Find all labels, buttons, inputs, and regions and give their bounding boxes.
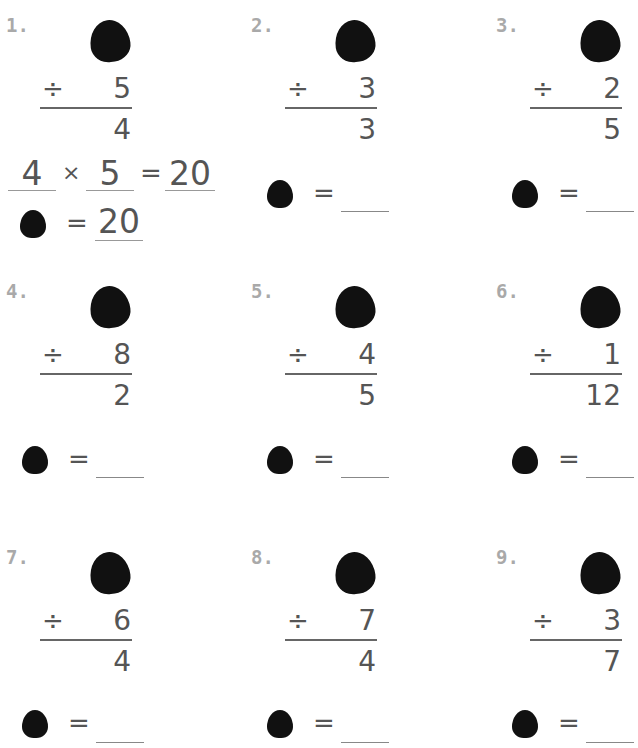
- worked-product: 20: [165, 154, 215, 193]
- answer-line: [86, 190, 134, 191]
- problem-number: 4.: [6, 280, 29, 302]
- unknown-blob-icon: [87, 283, 132, 330]
- equals-sign: =: [313, 708, 335, 738]
- divisor: 3: [585, 604, 621, 637]
- divisor: 4: [340, 338, 376, 371]
- division-bar: [40, 373, 132, 375]
- unknown-blob-icon: [87, 549, 132, 596]
- answer-blank[interactable]: [586, 742, 634, 743]
- problem-2: 2. ÷ 3 3 =: [245, 0, 490, 260]
- divide-sign: ÷: [532, 606, 554, 636]
- quotient: 3: [340, 113, 376, 146]
- worked-factor-b: 5: [86, 154, 134, 193]
- problem-number: 7.: [6, 546, 29, 568]
- unknown-blob-icon: [267, 446, 293, 474]
- divisor: 8: [95, 338, 131, 371]
- unknown-blob-icon: [512, 446, 538, 474]
- unknown-blob-icon: [577, 549, 622, 596]
- divisor: 1: [585, 338, 621, 371]
- equals-sign: =: [66, 208, 88, 238]
- unknown-blob-icon: [22, 446, 48, 474]
- equals-sign: =: [68, 708, 90, 738]
- answer-blank[interactable]: [341, 742, 389, 743]
- problem-number: 1.: [6, 14, 29, 36]
- unknown-blob-icon: [332, 549, 377, 596]
- equals-sign: =: [558, 444, 580, 474]
- divisor: 5: [95, 72, 131, 105]
- divide-sign: ÷: [532, 340, 554, 370]
- problem-7: 7. ÷ 6 4 =: [0, 532, 245, 748]
- quotient: 12: [585, 379, 621, 412]
- problem-number: 3.: [496, 14, 519, 36]
- times-sign: ×: [62, 160, 80, 185]
- unknown-blob-icon: [577, 283, 622, 330]
- unknown-blob-icon: [512, 710, 538, 738]
- worked-answer: 20: [95, 202, 143, 241]
- quotient: 7: [585, 645, 621, 678]
- unknown-blob-icon: [267, 180, 293, 208]
- problem-4: 4. ÷ 8 2 =: [0, 266, 245, 526]
- equals-sign: =: [558, 178, 580, 208]
- problem-5: 5. ÷ 4 5 =: [245, 266, 490, 526]
- quotient: 5: [340, 379, 376, 412]
- problem-3: 3. ÷ 2 5 =: [490, 0, 638, 260]
- unknown-blob-icon: [332, 283, 377, 330]
- division-bar: [530, 639, 622, 641]
- answer-line: [95, 240, 143, 241]
- problem-number: 5.: [251, 280, 274, 302]
- unknown-blob-icon: [20, 210, 46, 238]
- problem-number: 8.: [251, 546, 274, 568]
- divide-sign: ÷: [532, 74, 554, 104]
- problem-1: 1. ÷ 5 4 4 × 5 = 20 = 20: [0, 0, 245, 260]
- quotient: 2: [95, 379, 131, 412]
- quotient: 4: [95, 113, 131, 146]
- division-bar: [530, 373, 622, 375]
- equals-sign: =: [313, 444, 335, 474]
- quotient: 5: [585, 113, 621, 146]
- quotient: 4: [95, 645, 131, 678]
- unknown-blob-icon: [22, 710, 48, 738]
- answer-blank[interactable]: [586, 477, 634, 478]
- equals-sign: =: [558, 708, 580, 738]
- problem-number: 6.: [496, 280, 519, 302]
- problem-8: 8. ÷ 7 4 =: [245, 532, 490, 748]
- unknown-blob-icon: [332, 17, 377, 64]
- equals-sign: =: [68, 444, 90, 474]
- quotient: 4: [340, 645, 376, 678]
- divide-sign: ÷: [287, 606, 309, 636]
- divide-sign: ÷: [287, 74, 309, 104]
- division-bar: [530, 107, 622, 109]
- divide-sign: ÷: [42, 74, 64, 104]
- division-bar: [40, 107, 132, 109]
- answer-line: [165, 190, 215, 191]
- problem-9: 9. ÷ 3 7 =: [490, 532, 638, 748]
- worked-factor-a: 4: [8, 154, 56, 193]
- problem-6: 6. ÷ 1 12 =: [490, 266, 638, 526]
- equals-sign: =: [140, 158, 162, 188]
- unknown-blob-icon: [87, 17, 132, 64]
- divisor: 2: [585, 72, 621, 105]
- divide-sign: ÷: [42, 606, 64, 636]
- answer-blank[interactable]: [96, 477, 144, 478]
- division-bar: [285, 373, 377, 375]
- divisor: 3: [340, 72, 376, 105]
- problem-number: 2.: [251, 14, 274, 36]
- answer-line: [8, 190, 56, 191]
- problem-number: 9.: [496, 546, 519, 568]
- divide-sign: ÷: [287, 340, 309, 370]
- divisor: 6: [95, 604, 131, 637]
- division-bar: [40, 639, 132, 641]
- division-bar: [285, 639, 377, 641]
- equals-sign: =: [313, 178, 335, 208]
- unknown-blob-icon: [267, 710, 293, 738]
- answer-blank[interactable]: [341, 477, 389, 478]
- answer-blank[interactable]: [96, 742, 144, 743]
- unknown-blob-icon: [577, 17, 622, 64]
- division-bar: [285, 107, 377, 109]
- divide-sign: ÷: [42, 340, 64, 370]
- unknown-blob-icon: [512, 180, 538, 208]
- answer-blank[interactable]: [341, 211, 389, 212]
- divisor: 7: [340, 604, 376, 637]
- answer-blank[interactable]: [586, 211, 634, 212]
